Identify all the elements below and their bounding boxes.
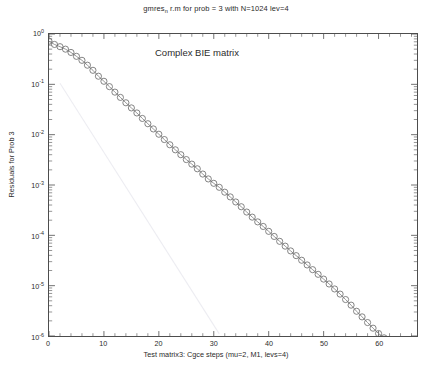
figure-title-subscript: n (165, 8, 168, 14)
figure-title-suffix: r.m for prob = 3 with N=1024 lev=4 (168, 4, 289, 13)
y-axis-tick-label: 100 (4, 29, 44, 38)
y-axis-tick-label: 10-5 (4, 282, 44, 291)
figure-canvas: gmresn r.m for prob = 3 with N=1024 lev=… (0, 0, 432, 374)
residual-curve-markers (49, 38, 393, 336)
plot-annotation-label: Complex BIE matrix (155, 47, 239, 58)
plot-svg (49, 34, 417, 336)
plot-area: Complex BIE matrix (48, 33, 418, 337)
x-axis-tick-label: 10 (99, 339, 107, 348)
reference-slope-line (60, 83, 219, 334)
x-axis-tick-label: 30 (210, 339, 218, 348)
y-axis-tick-label: 10-1 (4, 79, 44, 88)
x-axis-tick-label: 40 (265, 339, 273, 348)
axis-ticks (49, 34, 417, 336)
data-point-marker (381, 335, 387, 336)
x-axis-tick-label: 20 (154, 339, 162, 348)
y-axis-tick-label: 10-6 (4, 333, 44, 342)
figure-title: gmresn r.m for prob = 3 with N=1024 lev=… (0, 4, 432, 13)
x-axis-tick-label: 60 (375, 339, 383, 348)
x-axis-title: Test matrix3: Cgce steps (mu=2, M1, levs… (0, 350, 432, 359)
x-axis-tick-label: 50 (320, 339, 328, 348)
y-axis-title: Residuals for Prob 3 (7, 95, 16, 235)
figure-title-prefix: gmres (143, 4, 164, 13)
reference-line (60, 83, 219, 334)
x-axis-tick-label: 0 (46, 339, 50, 348)
